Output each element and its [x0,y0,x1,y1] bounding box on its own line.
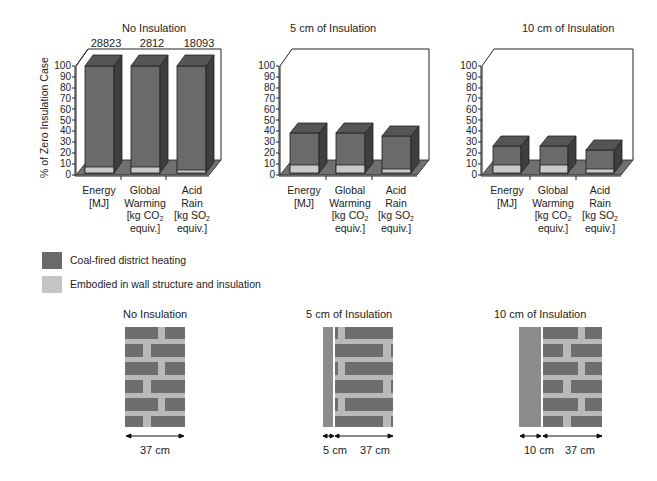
wall-5cm-insulation [323,327,393,427]
dim-label-37cm-3: 37 cm [565,444,595,456]
dim-label-5cm: 5 cm [323,444,347,456]
wall-no-insulation [125,327,185,427]
dim-arrow-37cm-1 [126,434,184,438]
dim-label-37cm-2: 37 cm [360,444,390,456]
wall-10cm-insulation [519,327,602,427]
dim-arrows-5cm [323,434,393,438]
dim-arrows-10cm [520,434,602,438]
dim-label-37cm: 37 cm [140,444,170,456]
wall-diagrams [0,0,657,481]
dim-label-10cm: 10 cm [524,444,554,456]
